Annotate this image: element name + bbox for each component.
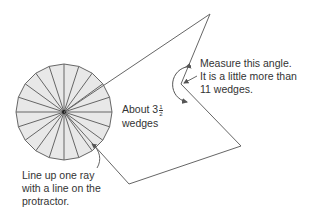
measure-line-2: It is a little more than <box>200 70 297 83</box>
lineup-line-3: protractor. <box>22 195 101 208</box>
lineup-ray-label: Line up one ray with a line on the protr… <box>22 169 101 208</box>
measure-leader-arrow <box>184 76 197 83</box>
angle-arc-arrow <box>173 67 187 102</box>
measure-line-1: Measure this angle. <box>200 57 297 70</box>
lineup-line-2: with a line on the <box>22 182 101 195</box>
about-prefix: About 3 <box>122 103 158 115</box>
about-fraction: 12 <box>159 104 162 117</box>
measure-angle-label: Measure this angle. It is a little more … <box>200 57 297 96</box>
about-wedges-label: About 312 wedges <box>122 103 163 130</box>
lineup-line-1: Line up one ray <box>22 169 101 182</box>
about-line-2: wedges <box>122 117 163 130</box>
measure-line-3: 11 wedges. <box>200 83 297 96</box>
